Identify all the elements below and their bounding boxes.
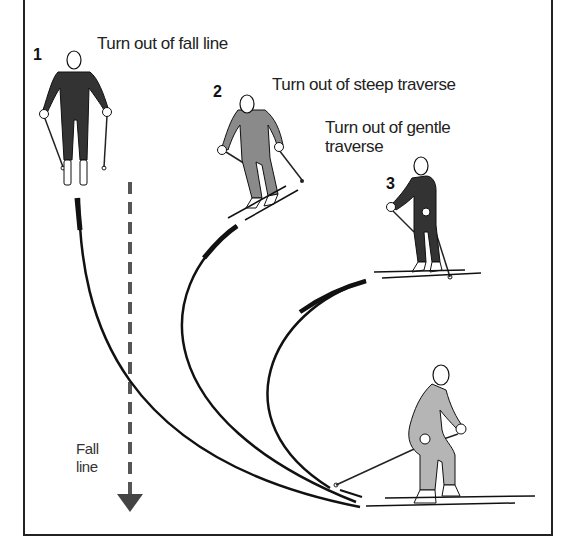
track-3	[268, 281, 366, 488]
label-turn-steep-traverse: Turn out of steep traverse	[272, 75, 456, 94]
track-2	[182, 226, 356, 502]
label-turn-fall-line: Turn out of fall line	[97, 34, 228, 53]
step-number-3: 3	[386, 175, 395, 193]
fall-line-arrowhead-icon	[117, 494, 143, 512]
skier-2	[218, 95, 305, 220]
skier-4	[334, 365, 535, 506]
step-number-1: 1	[33, 46, 42, 64]
track-3-start	[300, 281, 366, 312]
step-number-2: 2	[213, 83, 222, 101]
label-turn-gentle-traverse-line2: traverse	[325, 137, 383, 156]
diagram-stage: 1 2 3 Turn out of fall line Turn out of …	[0, 0, 569, 557]
label-fall-line-1: Fall	[76, 440, 99, 457]
label-turn-gentle-traverse-line1: Turn out of gentle	[325, 118, 450, 137]
label-fall-line-2: line	[76, 458, 98, 475]
skier-1	[40, 51, 112, 185]
track-2-start	[204, 226, 237, 258]
track-1-start	[77, 198, 80, 230]
track-1	[79, 198, 360, 507]
